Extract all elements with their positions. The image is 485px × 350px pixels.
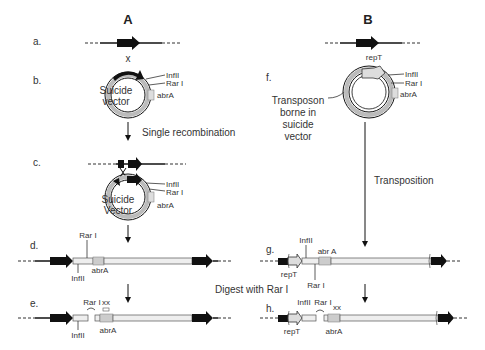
h-xx-label: xx	[333, 303, 341, 312]
g-abra-label: abr A	[318, 247, 337, 256]
digest-label: Digest with Rar I	[215, 284, 288, 295]
d-abra-label: abrA	[92, 266, 110, 275]
e-infii-label: InfII	[71, 331, 84, 340]
e-xx-label: xx	[102, 298, 110, 307]
transposition-label: Transposition	[374, 175, 434, 186]
site-rari-b: Rar I	[166, 79, 183, 88]
g-infii-label: InfII	[299, 236, 312, 245]
d-rari-label: Rar I	[79, 231, 96, 240]
h-abra-label: abrA	[326, 327, 344, 336]
g-rept-label: repT	[281, 270, 298, 279]
site-rari-c: Rar I	[166, 188, 183, 197]
e-rari-label: Rar I	[83, 298, 100, 307]
step-h-digest	[260, 310, 468, 325]
h-rept-label: repT	[284, 327, 301, 336]
h-rari-label: Rar I	[314, 298, 331, 307]
gene-x-label: x	[126, 53, 131, 64]
f-note-line4: vector	[284, 131, 312, 142]
f-note-line1: Transposon	[272, 95, 324, 106]
f-rari-label: Rar I	[405, 79, 422, 88]
h-infii-label: InfII	[297, 298, 310, 307]
marker-abra-c: abrA	[157, 201, 175, 210]
chromosome-gene-arrow-icon	[128, 157, 142, 171]
f-note-line2: borne in	[280, 107, 316, 118]
single-recombination-label: Single recombination	[142, 127, 235, 138]
f-rept-label: repT	[366, 53, 383, 62]
step-f-label: f.	[266, 72, 272, 83]
step-f-chromosome	[325, 36, 422, 50]
d-infii-label: InfII	[71, 274, 84, 283]
step-d-label: d.	[30, 240, 38, 251]
e-abra-label: abrA	[100, 326, 118, 335]
step-e-digest	[18, 308, 232, 330]
abra-marker-block	[148, 90, 154, 100]
f-note-line3: suicide	[282, 119, 314, 130]
panel-a-header: A	[123, 12, 133, 27]
vector-b-line1: Suicide	[100, 85, 133, 96]
g-rari-label: Rar I	[307, 281, 324, 290]
transposon-vector-f	[328, 66, 404, 118]
step-d-integrant	[18, 240, 232, 273]
f-infii-label: InfII	[405, 70, 418, 79]
panel-b-header: B	[363, 12, 372, 27]
step-h-label: h.	[266, 303, 274, 314]
f-abra-label: abrA	[400, 90, 418, 99]
vector-c-line2: Vector	[104, 205, 133, 216]
step-g-label: g.	[266, 244, 274, 255]
vector-b-line2: vector	[102, 96, 130, 107]
marker-abra-b: abrA	[157, 91, 175, 100]
step-a-label: a.	[33, 36, 41, 47]
vector-c-line1: Suicide	[102, 194, 135, 205]
step-a-chromosome	[85, 36, 182, 50]
step-b-label: b.	[33, 75, 41, 86]
step-c-label: c.	[33, 157, 41, 168]
step-e-label: e.	[30, 298, 38, 309]
cloning-diagram: A a. b. x Suicide vector InfII Rar I abr…	[0, 0, 485, 350]
gene-x-arrow-icon	[117, 36, 140, 50]
